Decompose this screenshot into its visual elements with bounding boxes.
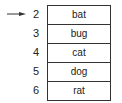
pointer-arrow-icon — [7, 11, 26, 17]
row-index: 2 — [30, 5, 42, 24]
row-index: 3 — [30, 24, 42, 43]
array-cell: rat — [48, 82, 110, 100]
array-cell: cat — [48, 44, 110, 63]
row-index: 4 — [30, 43, 42, 62]
array-cell: dog — [48, 63, 110, 82]
array-cell: bug — [48, 25, 110, 44]
array-table: bat bug cat dog rat — [47, 5, 111, 101]
array-cell: bat — [48, 6, 110, 25]
row-index: 6 — [30, 81, 42, 100]
row-index: 5 — [30, 62, 42, 81]
